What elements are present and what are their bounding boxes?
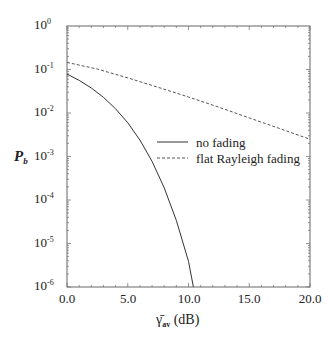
x-axis-label-unit: (dB) xyxy=(170,312,199,327)
y-tick-label: 100 xyxy=(34,18,51,31)
x-tick-label: 0.0 xyxy=(59,292,75,305)
y-tick-label: 10-2 xyxy=(34,105,54,118)
y-tick-label: 10-6 xyxy=(34,279,54,292)
legend-item-flat-rayleigh-fading: flat Rayleigh fading xyxy=(196,151,300,167)
y-axis-label-sub: b xyxy=(23,156,28,166)
chart: 10010-110-210-310-410-510-6 0.05.010.015… xyxy=(0,0,336,343)
x-tick-label: 10.0 xyxy=(178,292,201,305)
y-axis-label: Pb xyxy=(14,148,28,166)
x-axis-label: γ̄av (dB) xyxy=(156,312,199,329)
x-tick-label: 5.0 xyxy=(120,292,136,305)
y-tick-label: 10-4 xyxy=(34,192,54,205)
y-tick-label: 10-5 xyxy=(34,236,54,249)
x-tick-label: 15.0 xyxy=(238,292,261,305)
y-tick-label: 10-3 xyxy=(34,149,54,162)
x-tick-label: 20.0 xyxy=(299,292,322,305)
series-flat-rayleigh-fading xyxy=(67,62,310,139)
series-no-fading xyxy=(67,74,193,287)
y-axis-label-main: P xyxy=(14,148,23,164)
x-axis-label-sub: av xyxy=(162,320,170,329)
legend-item-no-fading: no fading xyxy=(196,135,245,151)
y-tick-label: 10-1 xyxy=(34,62,54,75)
